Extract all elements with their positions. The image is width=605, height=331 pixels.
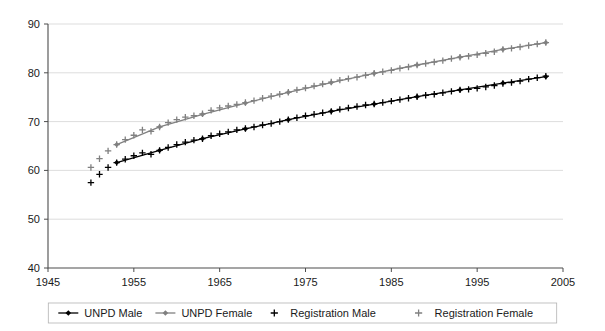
legend-item-label: UNPD Male [84,307,142,319]
y-tick-label: 90 [28,18,40,30]
y-tick-label: 70 [28,116,40,128]
x-tick-label: 2005 [551,276,575,288]
life-expectancy-line-chart: 405060708090 194519551965197519851995200… [0,0,605,331]
x-tick-label: 1955 [122,276,146,288]
y-tick-label: 60 [28,164,40,176]
x-tick-label: 1995 [465,276,489,288]
legend-item-label: Registration Male [290,307,376,319]
x-tick-label: 1985 [379,276,403,288]
y-tick-label: 80 [28,67,40,79]
x-tick-label: 1965 [207,276,231,288]
x-tick-label: 1975 [293,276,317,288]
legend-item-label: UNPD Female [181,307,252,319]
y-tick-label: 40 [28,262,40,274]
x-tick-label: 1945 [36,276,60,288]
y-tick-label: 50 [28,213,40,225]
chart-container: 405060708090 194519551965197519851995200… [0,0,605,331]
legend-item-label: Registration Female [435,307,533,319]
chart-legend: UNPD MaleUNPD FemaleRegistration MaleReg… [48,303,556,323]
